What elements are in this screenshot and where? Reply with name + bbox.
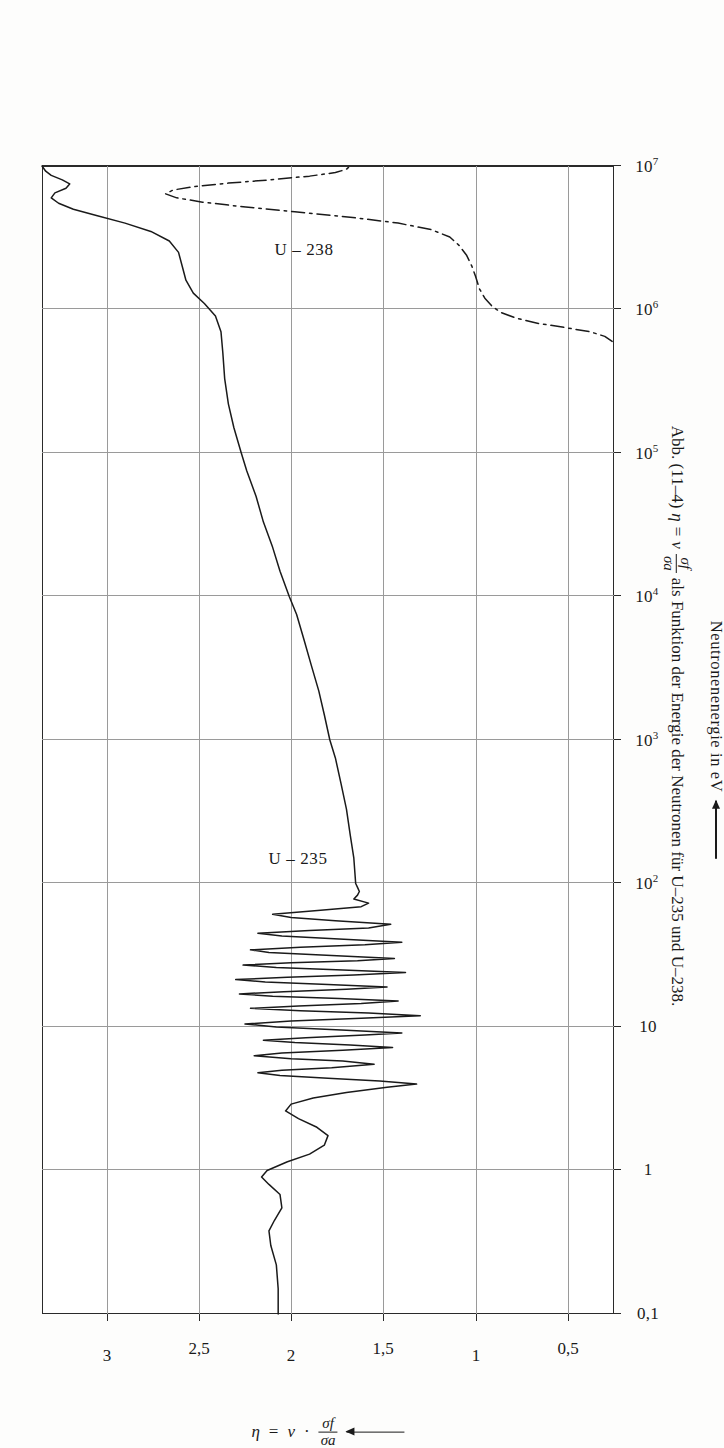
y-tick [568,1314,569,1321]
x-axis-title: Neutronenenergie in eV [706,621,724,859]
caption-nu: ν [665,541,688,549]
y-axis-eta-symbol: η [251,1422,259,1442]
x-tick-label: 0,1 [637,1304,659,1324]
x-tick-label: 106 [636,299,659,321]
x-tick-label: 1 [644,1161,653,1181]
series-annotation-u235: U – 235 [269,849,328,869]
y-tick-label: 0,5 [557,1339,578,1359]
x-tick [614,739,621,740]
y-axis-arrow-icon [347,1431,405,1432]
x-tick [614,1170,621,1171]
plot-area: 0,11101021031041051061070,511,522,53 U –… [42,166,614,1314]
caption-sigma-f: σf [677,556,693,572]
x-tick [614,1313,621,1314]
series-annotation-u238: U – 238 [275,240,334,260]
x-tick [614,1026,621,1027]
x-axis-arrow-icon [715,801,716,859]
x-tick [614,309,621,310]
x-tick-label: 104 [636,586,659,608]
x-tick-label: 10 [639,1017,656,1037]
y-axis-sigma-a: σa [319,1432,338,1448]
caption-sigma-a: σa [660,554,677,573]
y-tick-label: 3 [102,1346,111,1366]
y-tick [199,1314,200,1321]
caption-equals: = [665,527,688,537]
x-tick-label: 107 [636,155,659,177]
y-tick [476,1314,477,1321]
x-tick [614,596,621,597]
y-axis-title: η = ν · σf σa [251,1416,404,1448]
y-tick-label: 1,5 [373,1339,394,1359]
y-axis-fraction: σf σa [319,1416,338,1448]
y-tick [383,1314,384,1321]
x-axis-title-text: Neutronenenergie in eV [706,621,724,792]
y-axis-dot: · [304,1422,310,1442]
y-tick-label: 1 [471,1346,480,1366]
y-tick [291,1314,292,1321]
caption-eta: η [665,513,688,521]
x-tick [614,452,621,453]
y-axis-nu-symbol: ν [287,1422,295,1442]
caption-text: als Funktion der Energie der Neutronen f… [665,578,688,1006]
caption-fraction: σf σa [660,554,693,573]
y-tick-label: 2,5 [188,1339,209,1359]
x-tick-label: 105 [636,442,659,464]
x-tick-label: 102 [636,873,659,895]
y-axis-equals: = [269,1422,279,1442]
y-tick [107,1314,108,1321]
caption-number: Abb. (11–4) [665,426,688,508]
y-tick-label: 2 [287,1346,296,1366]
x-tick-label: 103 [636,729,659,751]
x-tick [614,165,621,166]
series-line-u-235 [42,166,420,1314]
x-tick [614,883,621,884]
curve-layer [42,166,614,1314]
figure-caption: Abb. (11–4) η = ν σf σa als Funktion der… [660,0,693,1432]
series-line-u-238 [166,166,613,341]
y-axis-sigma-f: σf [320,1416,336,1432]
